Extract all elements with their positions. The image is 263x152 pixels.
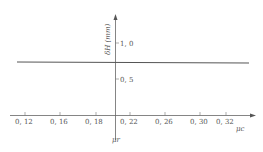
x-tick-label: 0, 12 <box>15 118 33 126</box>
x-tick-label: 0, 16 <box>50 118 68 126</box>
x-axis-label: μc <box>236 125 245 133</box>
mu-r-label: μr <box>112 136 121 144</box>
x-tick-label: 0, 32 <box>216 118 234 126</box>
y-tick-label: 0, 5 <box>120 76 133 84</box>
x-tick-label: 0, 26 <box>155 118 173 126</box>
x-tick-label: 0, 30 <box>190 118 208 126</box>
y-axis-arrow-icon <box>114 14 118 20</box>
series-line <box>17 62 249 63</box>
y-tick-label: 1, 0 <box>120 40 133 48</box>
x-ticks <box>25 112 226 116</box>
x-tick-label: 0, 22 <box>120 118 138 126</box>
y-axis-label: δH (mm) <box>104 23 112 55</box>
x-tick-label: 0, 18 <box>85 118 103 126</box>
chart: 0, 12 0, 16 0, 18 0, 22 0, 26 0, 30 0, 3… <box>0 0 263 152</box>
y-ticks <box>116 43 120 79</box>
x-axis-arrow-icon <box>250 114 256 118</box>
